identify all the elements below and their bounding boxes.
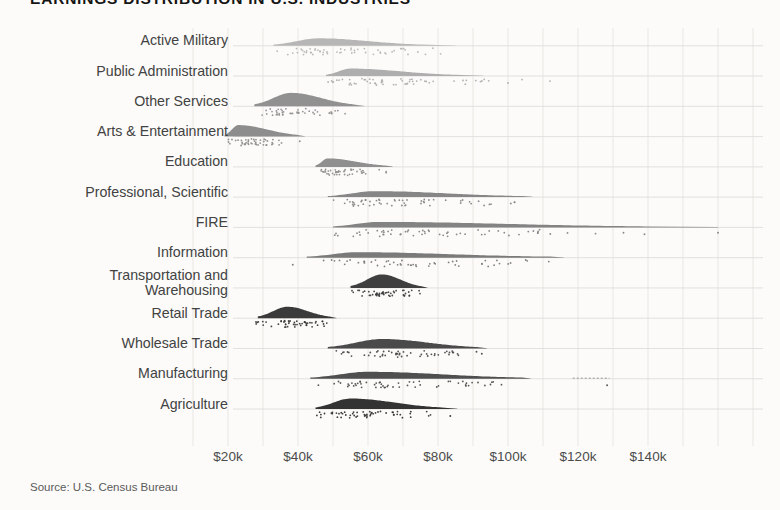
- data-dot: [327, 53, 329, 55]
- data-dot: [401, 260, 403, 262]
- data-dot: [330, 170, 332, 172]
- category-label-professional-scientific: Professional, Scientific: [8, 185, 228, 200]
- data-dot: [298, 112, 300, 114]
- data-dot: [385, 412, 387, 414]
- data-dot: [419, 293, 421, 295]
- data-dot: [366, 414, 368, 416]
- data-dot: [460, 200, 462, 202]
- data-dot: [460, 202, 462, 204]
- data-dot: [356, 232, 358, 234]
- data-dot: [302, 111, 304, 113]
- data-dot: [235, 140, 237, 142]
- data-dot: [491, 381, 493, 383]
- outlier-dot: [567, 232, 569, 234]
- data-dot: [353, 415, 355, 417]
- data-dot: [361, 295, 363, 297]
- data-dot: [465, 385, 467, 387]
- data-dot: [276, 110, 278, 112]
- data-dot: [255, 142, 257, 144]
- data-dot: [387, 231, 389, 233]
- data-dot: [323, 49, 325, 51]
- data-dot: [285, 326, 287, 328]
- data-dot: [294, 322, 296, 324]
- data-dot: [372, 294, 374, 296]
- data-dot: [458, 265, 460, 267]
- data-dot: [277, 114, 279, 116]
- data-dot: [364, 290, 366, 292]
- data-dot: [228, 141, 230, 143]
- data-dot: [294, 326, 296, 328]
- data-dot: [245, 139, 247, 141]
- data-dot: [451, 350, 453, 352]
- data-dot: [231, 139, 233, 141]
- data-dot: [408, 291, 410, 293]
- data-dot: [413, 381, 415, 383]
- data-dot: [362, 411, 364, 413]
- data-dot: [344, 49, 346, 51]
- data-dot: [360, 201, 362, 203]
- data-dot: [415, 265, 417, 267]
- data-dot: [375, 382, 377, 384]
- data-dot: [464, 83, 466, 85]
- data-dot: [290, 113, 292, 115]
- data-dot: [487, 266, 489, 268]
- data-dot: [379, 202, 381, 204]
- data-dot: [263, 141, 265, 143]
- data-dot: [510, 203, 512, 205]
- data-dot: [322, 54, 324, 56]
- data-dot: [351, 290, 353, 292]
- data-dot: [304, 112, 306, 114]
- data-dot: [255, 323, 257, 325]
- data-dot: [481, 234, 483, 236]
- data-dot: [352, 173, 354, 175]
- data-dot: [272, 139, 274, 141]
- data-dot: [478, 200, 480, 202]
- data-dot: [382, 292, 384, 294]
- category-label-other-services: Other Services: [8, 94, 228, 109]
- data-dot: [364, 414, 366, 416]
- data-dot: [393, 262, 395, 264]
- category-label-agriculture: Agriculture: [8, 397, 228, 412]
- data-dot: [409, 381, 411, 383]
- source-note: Source: U.S. Census Bureau: [30, 481, 178, 493]
- data-dot: [426, 411, 428, 413]
- data-dot: [421, 200, 423, 202]
- data-dot: [433, 262, 435, 264]
- data-dot: [237, 139, 239, 141]
- data-dot: [503, 232, 505, 234]
- data-dot: [375, 412, 377, 414]
- x-tick-140k: $140k: [630, 449, 667, 464]
- data-dot: [401, 80, 403, 82]
- data-dot: [431, 353, 433, 355]
- data-dot: [251, 143, 253, 145]
- data-dot: [344, 113, 346, 115]
- data-dot: [378, 169, 380, 171]
- data-dot: [549, 233, 551, 235]
- data-dot: [468, 385, 470, 387]
- data-dot: [434, 354, 436, 356]
- data-dot: [405, 231, 407, 233]
- data-dot: [317, 111, 319, 113]
- data-dot: [363, 261, 365, 263]
- data-dot: [314, 109, 316, 111]
- data-dot: [376, 200, 378, 202]
- data-dot: [386, 203, 388, 205]
- data-dot: [271, 144, 273, 146]
- data-dot: [403, 202, 405, 204]
- data-dot: [391, 51, 393, 53]
- outlier-dot: [717, 232, 719, 234]
- data-dot: [408, 295, 410, 297]
- data-dot: [380, 203, 382, 205]
- data-dot: [448, 354, 450, 356]
- data-dot: [276, 112, 278, 114]
- data-dot: [280, 320, 282, 322]
- data-dot: [267, 140, 269, 142]
- data-dot: [308, 110, 310, 112]
- data-dot: [373, 291, 375, 293]
- data-dot: [311, 326, 313, 328]
- data-dot: [366, 382, 368, 384]
- data-dot: [297, 52, 299, 54]
- data-dot: [419, 355, 421, 357]
- data-dot: [229, 143, 231, 145]
- data-dot: [445, 199, 447, 201]
